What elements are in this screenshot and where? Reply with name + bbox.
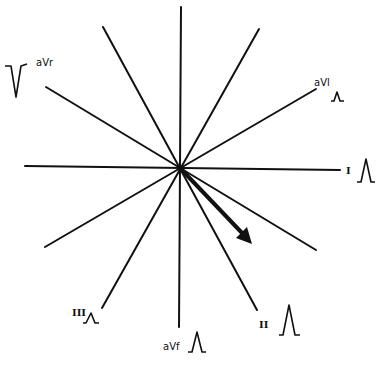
- label-ii: II: [259, 320, 268, 330]
- label-i: I: [346, 166, 351, 176]
- wave-avl-icon: [331, 92, 344, 101]
- wave-avf-icon: [188, 332, 206, 352]
- label-iii: III: [72, 308, 86, 318]
- label-avl: aVl: [314, 78, 330, 88]
- wave-i-icon: [357, 159, 375, 182]
- wave-ii-icon: [279, 305, 300, 335]
- label-avf: aVf: [163, 342, 180, 352]
- hexaxial-diagram: [0, 0, 384, 367]
- label-avr: aVr: [36, 58, 53, 68]
- wave-avr-icon: [5, 64, 27, 97]
